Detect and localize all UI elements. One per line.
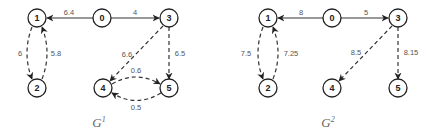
- svg-text:2: 2: [34, 83, 39, 93]
- edge-g1-5-4: 0.5: [112, 93, 161, 112]
- node-g2-4: 4: [323, 79, 341, 97]
- svg-text:4: 4: [100, 83, 105, 93]
- node-g2-0: 0: [323, 9, 341, 27]
- edge-weight-label: 6.4: [64, 8, 74, 17]
- edge-g1-4-5: 0.6: [112, 66, 160, 85]
- svg-text:4: 4: [329, 83, 334, 93]
- svg-text:2: 2: [265, 83, 270, 93]
- edge-weight-label: 7.25: [284, 49, 299, 58]
- edge-g1-1-2: 6: [18, 27, 32, 79]
- edge-g2-0-1: 8: [278, 8, 323, 19]
- edge-g2-3-5: 8.15: [398, 27, 418, 79]
- edge-weight-label: 5.8: [51, 49, 61, 58]
- edge-g1-2-1: 5.8: [42, 27, 61, 79]
- svg-text:3: 3: [166, 13, 171, 23]
- svg-text:5: 5: [166, 83, 171, 93]
- edge-weight-label: 4: [133, 8, 137, 17]
- graph-1: 6.4 4 6 5.8 6.6 6.5 0.6: [18, 8, 185, 131]
- graph-2: 8 5 7.5 7.25 8.5 8.15 0 1 2 3: [241, 8, 419, 131]
- node-g2-1: 1: [259, 9, 277, 27]
- edge-weight-label: 5: [364, 8, 368, 17]
- edge-g1-0-1: 6.4: [47, 8, 93, 19]
- edge-g2-2-1: 7.25: [273, 27, 298, 79]
- edge-weight-label: 0.6: [131, 66, 141, 75]
- edge-weight-label: 7.5: [241, 49, 251, 58]
- graph-caption: G1: [92, 115, 105, 130]
- node-g2-2: 2: [259, 79, 277, 97]
- node-g1-4: 4: [94, 79, 112, 97]
- svg-text:3: 3: [395, 13, 400, 23]
- node-g2-5: 5: [389, 79, 407, 97]
- node-g1-0: 0: [93, 9, 111, 27]
- edge-g2-3-4: 8.5: [339, 26, 392, 81]
- edge-g2-1-2: 7.5: [241, 27, 263, 79]
- edge-g1-0-3: 4: [111, 8, 159, 19]
- edge-weight-label: 0.5: [131, 103, 141, 112]
- edge-weight-label: 6.5: [175, 49, 185, 58]
- node-g2-3: 3: [389, 9, 407, 27]
- node-g1-3: 3: [160, 9, 178, 27]
- node-g1-1: 1: [28, 9, 46, 27]
- graph-caption: G2: [321, 115, 334, 130]
- svg-text:1: 1: [34, 13, 39, 23]
- svg-text:5: 5: [395, 83, 400, 93]
- edge-weight-label: 6: [18, 49, 22, 58]
- edge-weight-label: 8: [299, 8, 303, 17]
- edge-weight-label: 6.6: [122, 50, 132, 59]
- svg-text:0: 0: [99, 13, 104, 23]
- svg-text:1: 1: [265, 13, 270, 23]
- edge-weight-label: 8.5: [351, 48, 361, 57]
- edge-g2-0-3: 5: [341, 8, 388, 19]
- node-g1-2: 2: [28, 79, 46, 97]
- svg-text:0: 0: [329, 13, 334, 23]
- node-g1-5: 5: [160, 79, 178, 97]
- edge-g1-3-5: 6.5: [169, 27, 185, 79]
- edge-weight-label: 8.15: [404, 48, 419, 57]
- graphs-figure: 6.4 4 6 5.8 6.6 6.5 0.6: [0, 0, 431, 138]
